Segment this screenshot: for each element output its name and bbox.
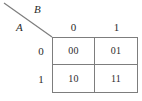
kmap-cell-r1c1: 11 (95, 65, 137, 92)
column-header-1: 1 (95, 18, 138, 37)
karnaugh-map-grid: 00 01 10 11 (52, 37, 138, 93)
row-variable-label: A (16, 22, 23, 33)
diagonal-divider-line (0, 0, 56, 40)
row-header-1: 1 (30, 65, 52, 93)
kmap-cell-r1c0: 10 (53, 65, 95, 92)
column-header-0: 0 (52, 18, 95, 37)
kmap-cell-r0c0: 00 (53, 38, 95, 65)
kmap-cell-r0c1: 01 (95, 38, 137, 65)
column-variable-label: B (34, 4, 41, 15)
column-header-row: 0 1 (52, 18, 138, 37)
row-header-0: 0 (30, 37, 52, 65)
corner-variable-block: B A (0, 0, 56, 40)
karnaugh-map-diagram: B A 0 1 0 1 00 01 10 11 (0, 0, 142, 101)
row-header-column: 0 1 (30, 37, 52, 93)
